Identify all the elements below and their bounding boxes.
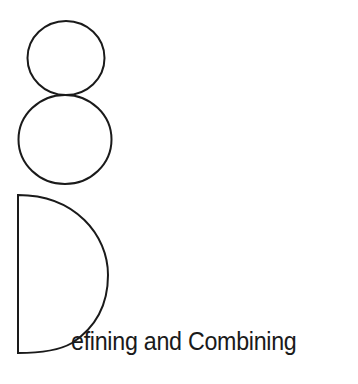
chapter-number-eight [19,21,112,184]
eight-bottom-loop [19,95,112,184]
chapter-title: efining and Combining [71,327,297,355]
eight-top-loop [28,21,105,95]
